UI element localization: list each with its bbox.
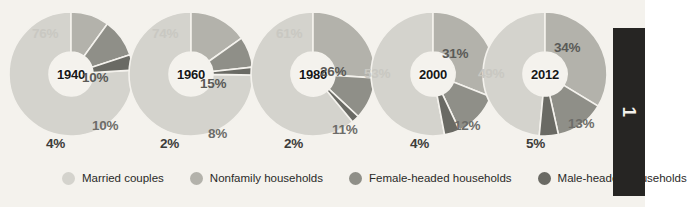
legend-item-married[interactable]: Married couples bbox=[62, 172, 164, 185]
pct-label-female-2012: 13% bbox=[568, 116, 594, 131]
legend-label: Nonfamily households bbox=[210, 172, 323, 184]
pct-label-male-1980: 2% bbox=[284, 136, 303, 151]
pct-label-married-2000: 53% bbox=[364, 66, 390, 81]
pct-label-nonfam-1940: 10% bbox=[82, 70, 108, 85]
pct-label-nonfam-1960: 15% bbox=[200, 76, 226, 91]
pct-label-female-1980: 11% bbox=[332, 122, 358, 137]
pct-label-nonfam-2012: 34% bbox=[554, 40, 580, 55]
side-panel: 1 bbox=[613, 28, 645, 196]
legend-item-female[interactable]: Female-headed households bbox=[349, 172, 512, 185]
pct-label-male-1940: 4% bbox=[46, 136, 65, 151]
legend-item-nonfam[interactable]: Nonfamily households bbox=[190, 172, 323, 185]
pct-label-nonfam-2000: 31% bbox=[442, 46, 468, 61]
pct-label-male-2000: 4% bbox=[410, 136, 429, 151]
donut-1960: 1960 bbox=[127, 10, 255, 138]
year-label-2012: 2012 bbox=[531, 67, 559, 82]
pct-label-married-1940: 76% bbox=[32, 26, 58, 41]
pct-label-married-2012: 49% bbox=[478, 66, 504, 81]
year-label-1940: 1940 bbox=[57, 67, 85, 82]
pct-label-male-2012: 5% bbox=[526, 136, 545, 151]
pct-label-married-1960: 74% bbox=[152, 26, 178, 41]
legend-label: Married couples bbox=[82, 172, 164, 184]
legend-label: Female-headed households bbox=[369, 172, 512, 184]
pct-label-married-1980: 61% bbox=[276, 26, 302, 41]
legend-swatch-icon bbox=[349, 172, 362, 185]
legend-swatch-icon bbox=[190, 172, 203, 185]
chart-legend: Married couplesNonfamily householdsFemal… bbox=[62, 166, 582, 190]
pie-chart-row: 194076%10%10%4%196074%15%8%2%198061%26%1… bbox=[0, 0, 605, 160]
pct-label-female-1940: 10% bbox=[92, 118, 118, 133]
pie-chart-2012: 201249%34%13%5% bbox=[470, 8, 620, 160]
year-label-2000: 2000 bbox=[419, 67, 447, 82]
legend-swatch-icon bbox=[538, 172, 551, 185]
legend-swatch-icon bbox=[62, 172, 75, 185]
side-panel-label: 1 bbox=[618, 106, 640, 117]
pct-label-nonfam-1980: 26% bbox=[320, 64, 346, 79]
pct-label-male-1960: 2% bbox=[160, 136, 179, 151]
pct-label-female-2000: 12% bbox=[454, 118, 480, 133]
pct-label-female-1960: 8% bbox=[208, 126, 227, 141]
